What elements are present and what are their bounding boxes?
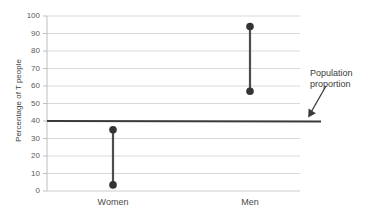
data-point-men-low (246, 88, 254, 96)
y-axis-spine (43, 16, 47, 191)
data-point-men-high (246, 23, 254, 31)
range-marker-women (109, 126, 117, 189)
x-category-label-men: Men (210, 198, 290, 207)
x-category-label-women: Women (73, 198, 153, 207)
y-tick-label-10: 10 (12, 170, 40, 178)
y-axis-title: Percentage of T people (14, 31, 23, 171)
y-tick-label-100: 100 (12, 12, 40, 20)
data-point-women-high (109, 126, 117, 134)
gridlines (47, 16, 300, 191)
chart-container: 100 90 80 70 60 50 40 30 20 10 0 Percent… (0, 0, 371, 218)
annotation-label-line1: Population (310, 68, 353, 79)
data-point-women-low (109, 181, 117, 189)
chart-canvas (0, 0, 371, 218)
population-proportion-line (47, 121, 321, 122)
annotation-arrow-icon (308, 86, 326, 118)
annotation-label-line2: proportion (310, 79, 351, 90)
y-tick-label-0: 0 (12, 187, 40, 195)
